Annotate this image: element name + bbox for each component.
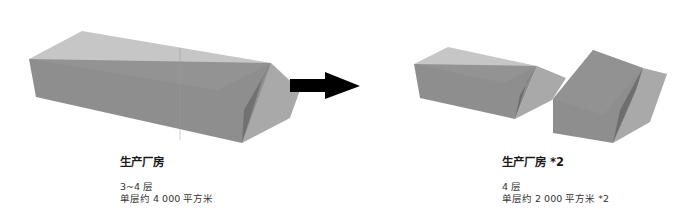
right-floors: 4 层 — [502, 181, 521, 193]
left-floors: 3~4 层 — [120, 181, 153, 193]
left-title: 生产厂房 — [120, 155, 164, 169]
transform-arrow-icon — [290, 72, 360, 99]
single-factory-block — [29, 31, 300, 143]
right-title: 生产厂房 *2 — [502, 155, 564, 169]
massing-diagram — [0, 0, 696, 209]
split-factory-block-1 — [414, 47, 566, 119]
split-factory-block-2 — [553, 50, 667, 143]
left-area: 单层约 4 000 平方米 — [120, 193, 213, 205]
right-area: 单层约 2 000 平方米 *2 — [502, 193, 609, 205]
